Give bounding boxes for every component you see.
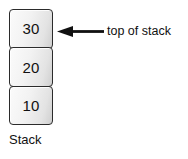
stack-caption-label: Stack	[9, 133, 42, 146]
stack-cell-value: 30	[22, 21, 39, 36]
stack-cell-top: 30	[9, 9, 53, 49]
stack-cell-value: 20	[22, 60, 39, 75]
stack-cell-middle: 20	[9, 47, 53, 87]
stack-diagram: 30 20 10 Stack top of stack	[0, 0, 188, 159]
stack-cell-value: 10	[22, 98, 39, 113]
annotation-label: top of stack	[107, 24, 171, 39]
stack-cell-bottom: 10	[9, 86, 53, 126]
arrow-left-icon	[56, 22, 104, 41]
top-of-stack-annotation: top of stack	[56, 22, 184, 41]
stack-boxes: 30 20 10	[9, 9, 53, 128]
